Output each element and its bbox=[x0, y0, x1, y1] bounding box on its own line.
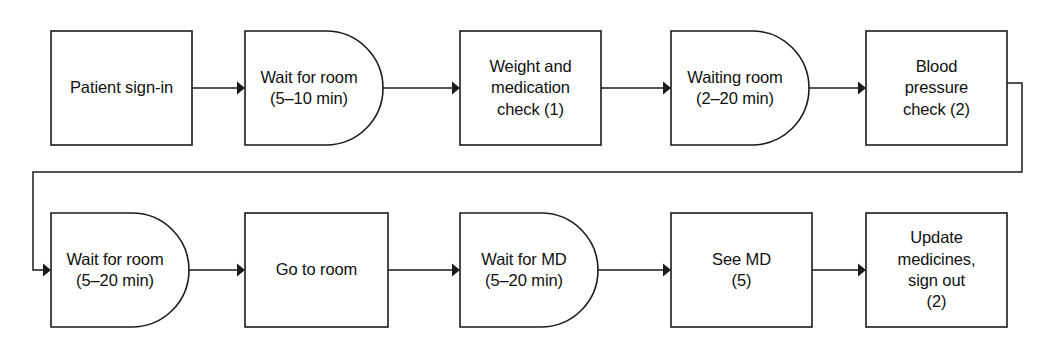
node-see-md[interactable] bbox=[671, 213, 812, 327]
arrow-head-icon bbox=[858, 264, 866, 277]
arrow-head-icon bbox=[237, 264, 245, 277]
node-patient-sign-in[interactable] bbox=[51, 31, 192, 145]
arrow-head-icon bbox=[663, 264, 671, 277]
connector-weight-medication-check-to-waiting-room bbox=[601, 82, 671, 95]
flowchart-svg bbox=[0, 0, 1055, 340]
arrow-head-icon bbox=[452, 82, 460, 95]
node-blood-pressure-check[interactable] bbox=[866, 31, 1007, 145]
arrow-head-icon bbox=[858, 82, 866, 95]
node-waiting-room[interactable] bbox=[671, 31, 809, 145]
arrow-head-icon bbox=[452, 264, 460, 277]
node-wait-for-room-1[interactable] bbox=[245, 31, 383, 145]
node-weight-medication-check[interactable] bbox=[460, 31, 601, 145]
connector-go-to-room-to-wait-for-md bbox=[388, 264, 460, 277]
node-go-to-room[interactable] bbox=[245, 213, 388, 327]
node-update-medicines-sign-out[interactable] bbox=[866, 213, 1007, 327]
arrow-head-icon bbox=[237, 82, 245, 95]
connector-wait-for-room-2-to-go-to-room bbox=[189, 264, 245, 277]
node-wait-for-room-2[interactable] bbox=[51, 213, 189, 327]
node-wait-for-md[interactable] bbox=[460, 213, 598, 327]
arrow-head-icon bbox=[43, 264, 51, 277]
connector-patient-sign-in-to-wait-for-room-1 bbox=[192, 82, 245, 95]
connector-waiting-room-to-blood-pressure-check bbox=[809, 82, 866, 95]
connector-wait-for-room-1-to-weight-medication-check bbox=[383, 82, 460, 95]
connector-see-md-to-update-medicines-sign-out bbox=[812, 264, 866, 277]
flowchart-canvas: Patient sign-in Wait for room (5–10 min)… bbox=[0, 0, 1055, 340]
connector-wait-for-md-to-see-md bbox=[598, 264, 671, 277]
arrow-head-icon bbox=[663, 82, 671, 95]
